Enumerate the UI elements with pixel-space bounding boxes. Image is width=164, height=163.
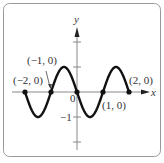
x-axis-label: x — [150, 86, 156, 98]
zero-point — [126, 89, 131, 94]
y-axis-label: y — [73, 13, 79, 25]
point-label-neg2: (−2, 0) — [13, 74, 43, 87]
zero-point — [48, 89, 53, 94]
zero-point — [100, 89, 105, 94]
graph: y x 0 −1 (−2, 0) (−1, 0) (1, 0) (2, 0) — [0, 0, 164, 163]
point-label-neg1: (−1, 0) — [27, 54, 57, 67]
origin-label: 0 — [70, 92, 76, 104]
zero-point — [22, 89, 27, 94]
y-tick-label-minus-one: −1 — [60, 111, 72, 123]
point-label-2: (2, 0) — [129, 74, 153, 87]
point-label-1: (1, 0) — [102, 99, 126, 112]
